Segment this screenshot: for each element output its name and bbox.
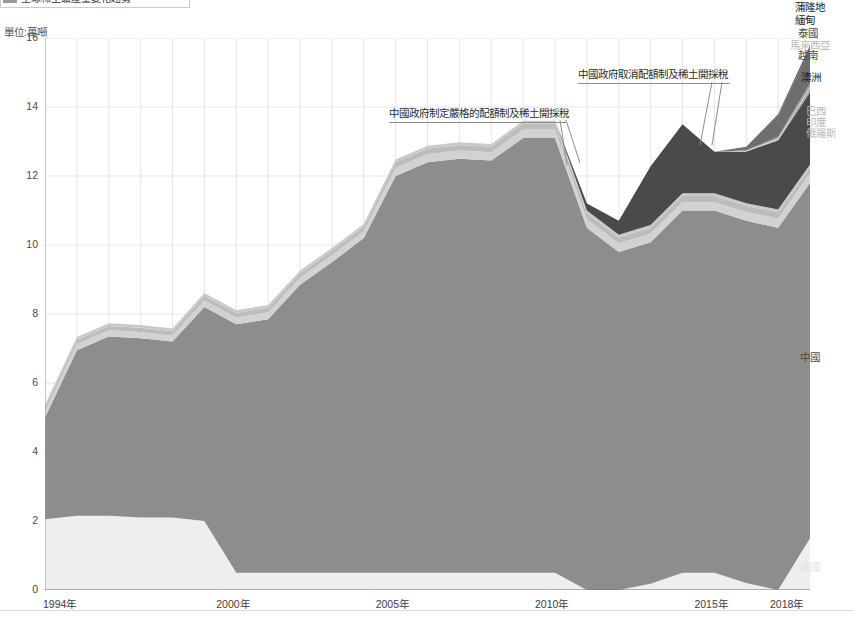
series-label-burundi: 蒲隆地 xyxy=(795,2,825,13)
y-axis-tick-label: 6 xyxy=(4,376,38,388)
y-axis-tick-label: 12 xyxy=(4,169,38,181)
page-title: 全球稀土礦產量變化趨勢 xyxy=(21,0,131,4)
series-label-usa: 美國 xyxy=(800,562,820,573)
x-axis-tick-label: 2015年 xyxy=(694,596,727,611)
y-axis-tick-label: 2 xyxy=(4,514,38,526)
x-axis-tick-label: 2000年 xyxy=(216,596,249,611)
y-axis-tick-label: 14 xyxy=(4,100,38,112)
chart-annotation: 中國政府取消配額制及稀土開採稅 xyxy=(578,66,730,84)
chart-title-box: 全球稀土礦產量變化趨勢 xyxy=(0,0,190,8)
x-axis-tick-label: 2010年 xyxy=(535,596,568,611)
series-label-myanmar: 緬甸 xyxy=(795,15,815,26)
series-label-china: 中國 xyxy=(800,352,820,363)
series-label-russia: 俄羅斯 xyxy=(806,128,836,139)
title-swatch-icon xyxy=(3,0,17,3)
x-axis-tick-label: 1994年 xyxy=(43,596,76,611)
y-axis-tick-label: 4 xyxy=(4,445,38,457)
series-label-australia: 澳洲 xyxy=(801,72,821,83)
chart-page: 全球稀土礦產量變化趨勢 單位:萬噸 02468101214161994年2000… xyxy=(0,0,854,617)
x-axis-tick-label: 2018年 xyxy=(770,596,803,611)
annotation-leader-line xyxy=(700,82,712,145)
x-axis-tick-label: 2005年 xyxy=(376,596,409,611)
series-label-vietnam: 越南 xyxy=(798,50,818,61)
series-label-thailand: 泰國 xyxy=(798,28,818,39)
chart-annotation: 中國政府制定嚴格的配額制及稀土開採稅 xyxy=(389,105,566,123)
annotation-leader-line xyxy=(712,82,722,145)
y-axis-tick-label: 8 xyxy=(4,307,38,319)
y-axis-tick-label: 0 xyxy=(4,583,38,595)
y-axis-tick-label: 10 xyxy=(4,238,38,250)
y-axis-tick-label: 16 xyxy=(4,31,38,43)
